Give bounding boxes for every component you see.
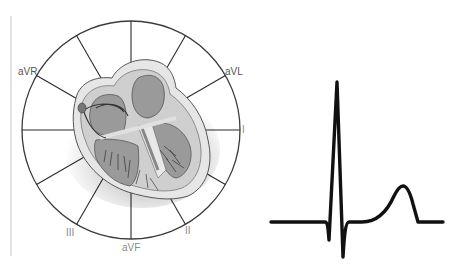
lead-label-ii: II	[185, 225, 191, 236]
sa-node	[78, 103, 86, 113]
hexaxial-ecg-diagram: aVR aVL I II aVF III	[0, 0, 455, 266]
lead-label-iii: III	[66, 227, 74, 238]
lead-label-i: I	[242, 124, 245, 135]
lead-label-avr: aVR	[18, 66, 37, 77]
lead-label-avl: aVL	[225, 66, 243, 77]
ecg-qrs-t-waveform	[271, 82, 443, 257]
lead-label-avf: aVF	[122, 242, 140, 253]
